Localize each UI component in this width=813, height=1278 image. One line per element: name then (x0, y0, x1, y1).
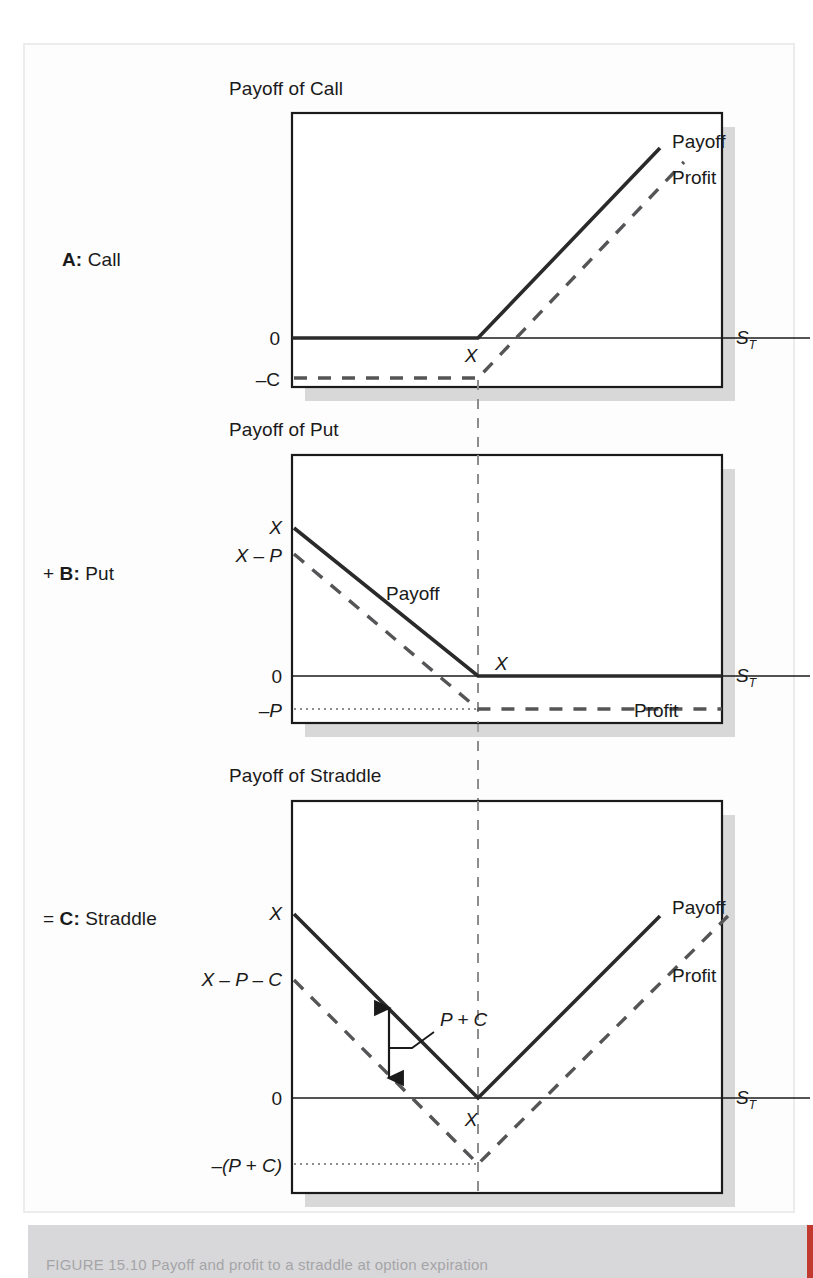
y-label-strike-straddle: X (268, 903, 283, 924)
x-label-strike-straddle: X (464, 1109, 479, 1130)
x-label-strike-put: X (494, 653, 509, 674)
panel-title-straddle: Payoff of Straddle (229, 765, 382, 787)
y-label-zero-put: 0 (271, 666, 282, 687)
y-label-minus-p-put: –P (258, 700, 283, 721)
row-label-call: A: Call (62, 249, 121, 271)
plot-frame-straddle (292, 801, 722, 1193)
x-label-strike-call: X (464, 345, 479, 366)
row-letter-call: A: (62, 249, 82, 270)
profit-label-call: Profit (672, 167, 717, 188)
panel-chart-put: X X – P 0 –P X ST Payoff Profit (190, 440, 810, 750)
premium-gap-label-straddle: P + C (440, 1009, 488, 1030)
x-axis-label-call: ST (736, 327, 758, 352)
row-name-straddle: Straddle (85, 908, 157, 929)
row-letter-put: B: (60, 563, 80, 584)
y-label-minus-p-plus-c-straddle: –(P + C) (210, 1155, 282, 1176)
row-label-put: + B: Put (43, 563, 114, 585)
payoff-label-call: Payoff (672, 131, 726, 152)
row-name-call: Call (88, 249, 121, 270)
figure-area: Payoff of Call A: Call 0 –C X ST Payoff … (0, 0, 813, 1278)
row-letter-straddle: C: (60, 908, 80, 929)
y-label-zero-call: 0 (269, 328, 280, 349)
row-label-straddle: = C: Straddle (43, 908, 157, 930)
payoff-label-put: Payoff (386, 583, 440, 604)
profit-label-put: Profit (634, 700, 679, 721)
x-axis-label-put: ST (736, 665, 758, 690)
profit-label-straddle: Profit (672, 965, 717, 986)
row-prefix-straddle: = (43, 908, 54, 929)
row-name-put: Put (85, 563, 114, 584)
y-label-x-minus-p-minus-c-straddle: X – P – C (200, 969, 282, 990)
y-label-strike-put: X (268, 517, 283, 538)
panel-title-call: Payoff of Call (229, 78, 343, 100)
panel-title-put: Payoff of Put (229, 419, 339, 441)
panel-chart-straddle: P + C X X – P – C 0 –(P + C) X ST Payoff… (190, 786, 810, 1216)
row-prefix-put: + (43, 563, 54, 584)
payoff-label-straddle: Payoff (672, 897, 726, 918)
plot-frame-put (292, 455, 722, 723)
x-axis-label-straddle: ST (736, 1087, 758, 1112)
y-label-zero-straddle: 0 (271, 1088, 282, 1109)
y-label-x-minus-p-put: X – P (235, 545, 283, 566)
panel-chart-call: 0 –C X ST Payoff Profit (190, 100, 810, 410)
